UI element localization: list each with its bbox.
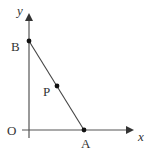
y-axis-label: y — [15, 3, 23, 18]
point-a-label: A — [81, 136, 91, 151]
point-p-label: P — [43, 84, 50, 99]
point-p — [55, 84, 60, 89]
point-a — [82, 128, 87, 133]
point-b-label: B — [11, 39, 20, 54]
x-axis-label: x — [137, 129, 144, 144]
coordinate-diagram: y x O B P A — [0, 0, 152, 155]
point-b — [27, 39, 32, 44]
origin-label: O — [7, 123, 16, 138]
